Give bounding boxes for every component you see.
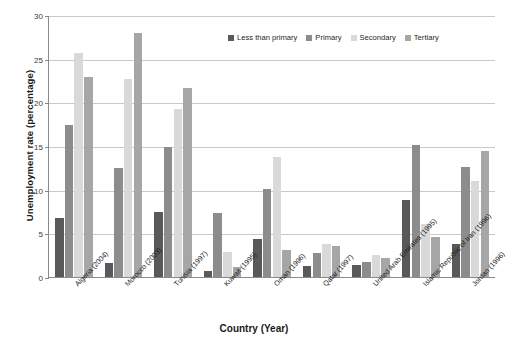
- bar: [174, 109, 183, 277]
- bar: [362, 262, 371, 277]
- bar-group: [49, 16, 99, 277]
- bar-group: [198, 16, 248, 277]
- unemployment-by-education-bar-chart: Unemployment rate (percentage) Less than…: [0, 0, 508, 353]
- bar: [164, 147, 173, 277]
- bar-group: [297, 16, 347, 277]
- bar: [352, 265, 361, 277]
- bar: [124, 79, 133, 277]
- bar: [303, 266, 312, 277]
- bar: [154, 212, 163, 277]
- bar: [84, 77, 93, 277]
- bar-group: [148, 16, 198, 277]
- bar-group: [247, 16, 297, 277]
- y-axis-tick-label: 25: [34, 55, 43, 64]
- bar-group: [346, 16, 396, 277]
- bar: [402, 200, 411, 277]
- y-axis-tick: [45, 278, 49, 279]
- bar: [313, 253, 322, 277]
- bar: [114, 168, 123, 277]
- y-axis-title: Unemployment rate (percentage): [24, 41, 35, 251]
- bar: [55, 218, 64, 277]
- bar: [263, 189, 272, 277]
- y-axis-tick-label: 20: [34, 99, 43, 108]
- bar: [183, 88, 192, 277]
- bar: [204, 271, 213, 277]
- bar: [461, 167, 470, 277]
- x-axis-title: Country (Year): [0, 323, 508, 334]
- y-axis-tick-label: 5: [39, 230, 43, 239]
- bar: [105, 263, 114, 277]
- bar: [74, 53, 83, 277]
- bars-layer: [49, 16, 495, 277]
- y-axis-tick-label: 10: [34, 186, 43, 195]
- bar: [412, 145, 421, 277]
- y-axis-tick-label: 15: [34, 143, 43, 152]
- bar: [134, 33, 143, 277]
- bar: [65, 125, 74, 277]
- y-axis-tick-label: 30: [34, 12, 43, 21]
- y-axis-tick-label: 0: [39, 274, 43, 283]
- bar: [213, 213, 222, 277]
- bar-group: [99, 16, 149, 277]
- bar: [273, 157, 282, 277]
- plot-area: 051015202530: [48, 16, 495, 278]
